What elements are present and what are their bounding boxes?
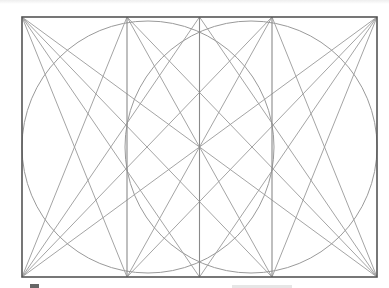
left-circle <box>22 21 274 273</box>
cropped-caption-mark <box>30 284 39 288</box>
geometric-diagram <box>0 0 389 288</box>
right-circle <box>125 21 377 273</box>
